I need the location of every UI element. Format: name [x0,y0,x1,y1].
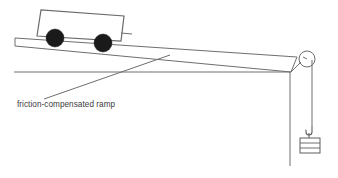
front-wheel [94,34,112,52]
string [291,60,312,127]
trolley-tow-hook [121,33,132,34]
rear-wheel [46,29,64,47]
ramp-front-edge-line [15,46,291,72]
trolley [37,10,132,52]
pulley [299,51,315,67]
ramp-caption-label: friction-compensated ramp [17,100,116,109]
slotted-mass-hanger [300,127,320,153]
mass-stack [300,138,320,153]
diagram-canvas: friction-compensated ramp [0,0,338,178]
physics-diagram-figure: friction-compensated ramp [0,0,338,178]
ramp-right-end-cap [291,57,297,72]
caption-leader-line [44,55,170,99]
